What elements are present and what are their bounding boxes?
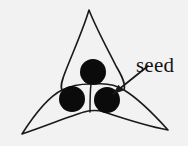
seed-pod-drawing: seed [0,0,188,146]
septum-vertical [90,84,91,112]
seed-top-circle [80,59,106,85]
seed-label-text: seed [136,53,174,77]
seed-left-circle [59,86,85,112]
seed-pod-figure: seed [0,0,188,146]
